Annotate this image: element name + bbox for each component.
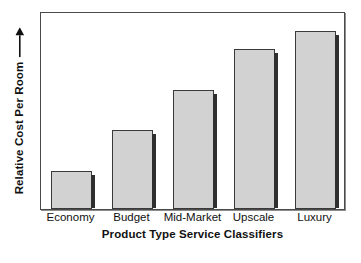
x-axis-tick-labels: EconomyBudgetMid-MarketUpscaleLuxury [40, 211, 345, 227]
x-tick-label-budget: Budget [101, 211, 162, 223]
bar-budget [112, 130, 153, 209]
x-tick-label-upscale: Upscale [223, 211, 284, 223]
bar-luxury [295, 31, 336, 209]
bar-mid-market [173, 90, 214, 209]
y-axis-title-text: Relative Cost Per Room [13, 62, 25, 195]
x-tick-label-mid-market: Mid-Market [162, 211, 223, 223]
plot-frame [40, 12, 345, 210]
y-axis-title-container: Relative Cost Per Room [4, 12, 34, 210]
x-axis-title: Product Type Service Classifiers [40, 228, 345, 240]
plot-area [41, 13, 344, 209]
bar-upscale [234, 49, 275, 209]
bar-chart-figure: Relative Cost Per Room EconomyBudgetMid-… [0, 0, 361, 263]
y-axis-title: Relative Cost Per Room [13, 28, 25, 195]
x-tick-label-economy: Economy [40, 211, 101, 223]
x-tick-label-luxury: Luxury [284, 211, 345, 223]
bar-economy [51, 171, 92, 209]
up-arrow-icon [15, 28, 24, 58]
